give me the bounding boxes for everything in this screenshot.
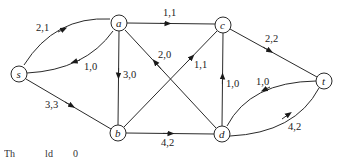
edge-label-a-b: 3,0 [123, 69, 136, 80]
edge-label-c-t: 2,2 [265, 33, 278, 44]
edge-label-b-d: 4,2 [161, 137, 174, 148]
edge-label-d-a: 2,0 [158, 49, 171, 60]
arrow-b-c-icon [185, 57, 192, 64]
node-label-s: s [17, 68, 21, 80]
arrow-s-b-icon [65, 102, 72, 106]
edge-a-c [127, 23, 215, 24]
edge-label-s-b: 3,3 [45, 99, 58, 110]
flow-network-diagram: 2,1 1,0 1,1 3,0 2,0 1,1 1,0 2,2 1,0 4,2 … [0, 0, 341, 157]
node-b: b [110, 125, 126, 141]
edge-label-a-c: 1,1 [163, 7, 176, 18]
edge-label-d-c: 1,0 [226, 78, 239, 89]
edge-a-s [27, 31, 113, 73]
node-t: t [316, 73, 332, 89]
arrow-c-t-icon [263, 47, 270, 51]
edge-a-b [118, 31, 119, 125]
node-label-d: d [219, 128, 225, 140]
figure-caption: Th ld 0 [4, 148, 204, 157]
arrow-d-a-icon [155, 62, 161, 69]
edge-t-d [227, 81, 316, 126]
node-label-a: a [116, 17, 122, 29]
node-label-c: c [220, 19, 225, 31]
node-c: c [215, 17, 231, 33]
edge-d-t [230, 88, 319, 136]
edge-label-b-c: 1,1 [194, 59, 207, 70]
node-d: d [214, 126, 230, 142]
edge-label-s-a: 2,1 [36, 22, 49, 33]
node-label-b: b [115, 127, 121, 139]
edge-label-a-s: 1,0 [84, 61, 97, 72]
arrow-d-t-icon [282, 114, 289, 119]
node-s: s [11, 66, 27, 82]
edge-label-d-t: 4,2 [288, 121, 301, 132]
node-a: a [111, 15, 127, 31]
edge-b-c [124, 31, 217, 127]
edge-label-t-d: 1,0 [256, 76, 269, 87]
